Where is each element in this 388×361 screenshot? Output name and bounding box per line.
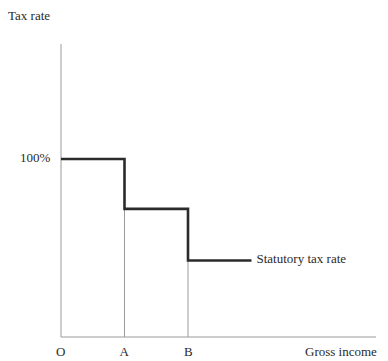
series-group [61, 159, 252, 260]
guide-lines [125, 209, 189, 337]
y-tick-label-100: 100% [20, 150, 50, 166]
origin-label: O [56, 344, 65, 360]
y-axis-label: Tax rate [8, 8, 50, 24]
x-axis-label: Gross income [305, 344, 377, 360]
statutory-tax-rate-line [61, 159, 252, 260]
series-label: Statutory tax rate [257, 251, 347, 267]
x-tick-label-b: B [184, 344, 193, 360]
chart [0, 0, 388, 361]
x-tick-label-a: A [120, 344, 129, 360]
